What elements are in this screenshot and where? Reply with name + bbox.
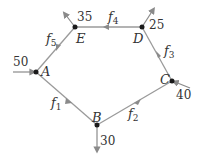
edge-label-f3: f3 (163, 43, 175, 60)
node-E (73, 25, 78, 30)
external-value-E: 35 (77, 10, 92, 24)
edge-label-f2: f2 (127, 106, 139, 123)
flow-network-diagram: 50 30 40 25 35 A B C D E f1 f2 f3 f4 f5 (0, 0, 201, 160)
arrow-icon (65, 98, 72, 104)
edge-f1 (36, 72, 97, 125)
external-B: 30 (97, 125, 115, 150)
node-label-E: E (75, 31, 86, 46)
node-label-D: D (132, 31, 144, 46)
edge-label-f1: f1 (50, 95, 62, 112)
edge-f4 (75, 24, 142, 30)
edge-label-f4: f4 (107, 9, 119, 26)
node-label-C: C (160, 72, 170, 87)
node-A (34, 70, 39, 75)
external-value-B: 30 (100, 134, 115, 148)
external-A: 50 (13, 55, 33, 72)
external-C: 40 (175, 82, 191, 102)
node-C (170, 79, 175, 84)
external-value-A: 50 (13, 55, 28, 69)
external-D: 25 (142, 10, 164, 32)
arrow-icon (103, 24, 109, 30)
external-value-D: 25 (149, 18, 164, 32)
node-label-B: B (91, 110, 102, 125)
node-D (140, 25, 145, 30)
external-E: 35 (65, 10, 92, 27)
edge-label-f5: f5 (45, 31, 57, 48)
external-value-C: 40 (176, 88, 191, 102)
arrow-icon (56, 44, 61, 51)
node-label-A: A (40, 64, 50, 79)
